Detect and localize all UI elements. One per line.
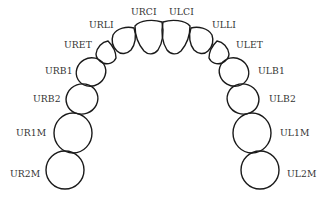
- label-ulb1: ULB1: [258, 65, 285, 76]
- tooth-urci: [135, 20, 163, 54]
- label-ulet: ULET: [236, 39, 264, 50]
- label-urci: URCI: [131, 6, 157, 17]
- label-ur1m: UR1M: [16, 127, 46, 138]
- tooth-urli: [112, 27, 135, 53]
- dental-arch-diagram: URCI ULCI URLI ULLI URET ULET URB1 ULB1 …: [0, 0, 325, 203]
- arch-svg: URCI ULCI URLI ULLI URET ULET URB1 ULB1 …: [0, 0, 325, 203]
- tooth-ulli: [190, 27, 213, 53]
- label-uret: URET: [64, 39, 93, 50]
- tooth-ur1m: [54, 113, 92, 153]
- tooth-ulci: [162, 20, 190, 54]
- label-ul1m: UL1M: [280, 127, 310, 138]
- label-ulb2: ULB2: [269, 93, 296, 104]
- label-ulli: ULLI: [212, 19, 236, 30]
- label-ur2m: UR2M: [10, 168, 40, 179]
- label-urli: URLI: [89, 19, 114, 30]
- label-ulci: ULCI: [169, 6, 194, 17]
- label-urb1: URB1: [45, 65, 73, 76]
- tooth-ur2m: [46, 151, 84, 189]
- label-ul2m: UL2M: [287, 168, 317, 179]
- tooth-ul1m: [233, 113, 271, 153]
- label-urb2: URB2: [33, 93, 61, 104]
- tooth-ul2m: [241, 151, 279, 189]
